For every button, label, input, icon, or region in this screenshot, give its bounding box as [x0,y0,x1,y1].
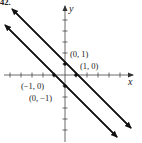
graph: 42. y x (0, 1) (1, 0) ( [0,0,142,143]
label-point-0-1: (0, 1) [70,49,89,59]
point-0-1 [63,62,67,66]
label-point-neg1-0: (−1, 0) [21,81,44,91]
x-axis-label: x [127,76,133,87]
y-axis-label: y [68,3,74,14]
point-neg1-0 [52,73,56,77]
point-0-neg1 [63,84,67,88]
label-point-1-0: (1, 0) [80,61,99,71]
label-point-0-neg1: (0, −1) [29,93,52,103]
point-1-0 [74,73,78,77]
figure-number: 42. [0,0,11,7]
upper-line-arrow-start [12,9,131,128]
